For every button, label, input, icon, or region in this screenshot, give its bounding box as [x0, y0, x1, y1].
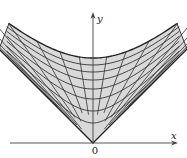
hyperbolic-grid-diagram: x y 0: [0, 0, 187, 158]
y-axis-label: y: [96, 13, 103, 24]
diagram-canvas: x y 0: [0, 0, 187, 158]
x-axis-label: x: [171, 130, 177, 141]
origin-label: 0: [92, 145, 98, 156]
